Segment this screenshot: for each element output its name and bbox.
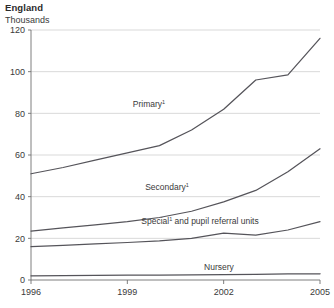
- x-axis-ticks-group: 1996199920022005: [21, 280, 330, 297]
- y-tick-label: 20: [15, 234, 25, 244]
- x-tick-label: 2005: [310, 287, 330, 297]
- x-tick-label: 1999: [117, 287, 137, 297]
- series-label-suffix: and pupil referral units: [172, 216, 258, 226]
- footnote-marker: 1: [186, 182, 189, 188]
- series-labels-group: Primary1Secondary1Special1 and pupil ref…: [133, 99, 259, 272]
- series-label-text: Nursery: [204, 262, 235, 272]
- series-line-nursery: [31, 274, 320, 276]
- series-label-secondary: Secondary1: [145, 182, 189, 192]
- series-label-nursery: Nursery: [204, 262, 235, 272]
- y-tick-label: 120: [10, 25, 25, 35]
- line-chart-plot: 020406080100120 1996199920022005 Primary…: [0, 0, 334, 308]
- footnote-marker: 1: [162, 99, 165, 105]
- series-label-text: Secondary: [145, 182, 186, 192]
- y-tick-label: 80: [15, 109, 25, 119]
- series-label-text: Primary: [133, 99, 163, 109]
- y-tick-label: 60: [15, 150, 25, 160]
- series-label-primary: Primary1: [133, 99, 165, 109]
- data-series-group: [31, 38, 320, 275]
- x-tick-label: 2002: [214, 287, 234, 297]
- series-label-special: Special1 and pupil referral units: [141, 216, 258, 226]
- gridlines-group: [31, 30, 320, 238]
- series-line-primary: [31, 38, 320, 173]
- y-axis-ticks-group: 020406080100120: [10, 25, 31, 285]
- x-tick-label: 1996: [21, 287, 41, 297]
- series-label-text: Special: [141, 216, 169, 226]
- y-tick-label: 0: [20, 275, 25, 285]
- y-tick-label: 40: [15, 192, 25, 202]
- y-tick-label: 100: [10, 67, 25, 77]
- chart-container: England Thousands 020406080100120 199619…: [0, 0, 334, 308]
